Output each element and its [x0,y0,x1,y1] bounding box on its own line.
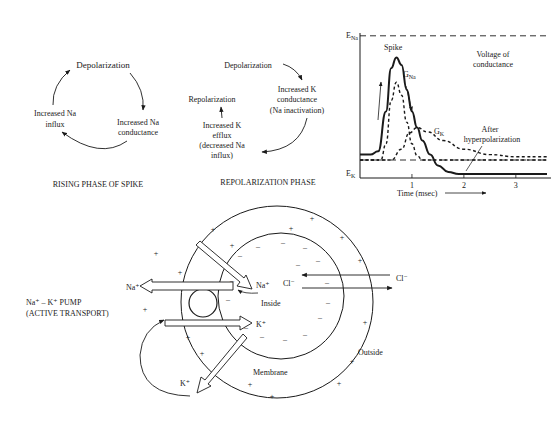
plus-charge: + [154,249,159,258]
repolarization-cycle: Depolarization Increased K conductance (… [188,61,324,187]
node-k-efflux-1: Increased K [203,121,242,130]
node-k-efflux-4: influx) [211,151,233,160]
minus-charge: – [302,243,308,252]
minus-charge: – [324,278,330,287]
arrow-influx-to-depol [53,70,70,105]
node-depolarization-2: Depolarization [224,61,272,70]
pump-label-line2: (ACTIVE TRANSPORT) [26,309,109,318]
annotation-spike: Spike [384,43,403,52]
rising-arrow [378,82,381,120]
minus-charge: – [255,242,261,251]
node-k-conductance-3: (Na inactivation) [270,106,325,115]
minus-charge: – [302,330,308,339]
plus-charge: + [289,224,294,233]
y-label-ek: EK [346,169,356,179]
inner-membrane [218,233,344,359]
pump-carrier [189,289,217,317]
node-na-conductance-2: conductance [118,128,158,137]
arrow-depol-to-conductance [130,73,143,110]
annotation-conductance: conductance [473,60,513,69]
minus-charge: – [280,238,286,247]
node-na-influx-1: Increased Na [34,109,76,118]
label-na-out: Na⁺ [126,283,140,292]
plus-charge: + [358,256,363,265]
plus-charge: + [310,214,315,223]
node-k-efflux-2: efflux [213,131,232,140]
label-outside: Outside [358,348,383,357]
minus-charge: – [295,260,301,269]
plus-charge: + [211,225,216,234]
label-inside: Inside [261,299,281,308]
action-potential-chart: ENa EK 123 Spike GNa GK Voltage of condu… [346,31,551,198]
label-na-in: Na⁺ [256,281,270,290]
annotation-gk: GK [434,127,445,137]
minus-charge: – [225,295,231,304]
x-tick-label-2: 2 [462,181,466,190]
rising-phase-title: RISING PHASE OF SPIKE [53,180,144,189]
node-k-conductance-1: Increased K [278,85,317,94]
node-depolarization: Depolarization [76,60,130,70]
plus-charge: + [337,379,342,388]
arrow-depol-to-k-conductance [283,64,302,80]
plus-charge: + [270,392,275,401]
minus-charge: – [259,332,265,341]
plus-charge: + [363,318,368,327]
label-k-in: K⁺ [256,320,266,329]
node-repolarization: Repolarization [188,95,235,104]
plus-charge: + [200,349,205,358]
k-influx-arrow [165,316,252,330]
falling-arrow [406,86,412,111]
na-return-arrow [238,290,258,293]
minus-charge: – [237,251,243,260]
pump-label-line1: Na⁺ – K⁺ PUMP [26,298,82,307]
plus-charge: + [230,241,235,250]
annotation-voltage-of: Voltage of [477,50,510,59]
plus-charge: + [143,305,148,314]
node-na-conductance-1: Increased Na [117,118,159,127]
repolarization-phase-title: REPOLARIZATION PHASE [220,178,315,187]
y-label-ena: ENa [346,31,358,41]
k-efflux-arrow [197,334,247,393]
rising-phase-cycle: Depolarization Increased Na conductance … [34,60,159,189]
plus-charge: + [350,357,355,366]
diagram-canvas: Depolarization Increased Na conductance … [0,0,551,422]
plus-charge: + [178,268,183,277]
minus-charge: – [282,335,288,344]
label-membrane: Membrane [253,368,288,377]
minus-charge: – [325,298,331,307]
node-k-conductance-2: conductance [277,95,317,104]
x-tick-label-3: 3 [514,181,518,190]
plus-charge: + [186,333,191,342]
node-k-efflux-3: (decreased Na [199,141,245,150]
arrow-efflux-to-repol [221,107,222,118]
annotation-gna: GNa [403,70,416,80]
annotation-hyperpolarization: hyperpolarization [464,135,520,144]
label-cl-out: Cl⁻ [396,274,408,283]
plus-charge: + [340,233,345,242]
node-na-influx-2: influx [45,120,64,129]
arrow-k-conductance-to-efflux [262,118,307,152]
minus-charge: – [315,256,321,265]
x-axis-label: Time (msec) [397,189,438,198]
cell-diagram: Na⁺ Na⁺ K⁺ K⁺ Cl⁻ Cl⁻ Inside Outside Mem… [26,206,408,401]
minus-charge: – [317,313,323,322]
label-k-out: K⁺ [180,379,190,388]
na-efflux-arrow [140,279,233,293]
label-cl-in: Cl⁻ [283,279,295,288]
annotation-after: After [482,125,499,134]
plus-charge: + [248,380,253,389]
